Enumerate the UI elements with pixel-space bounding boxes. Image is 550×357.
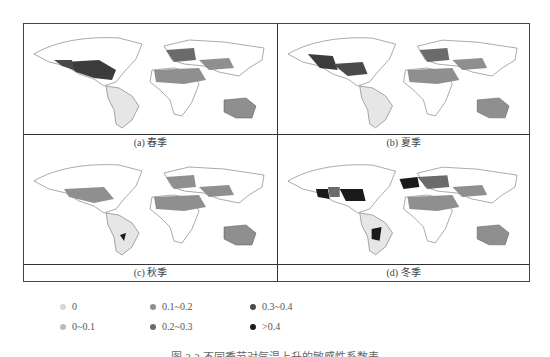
panel-label-autumn: (c) 秋季 [24,264,277,281]
legend-item-0.3-0.4: 0.3~0.4 [250,301,292,312]
legend-swatch-icon [150,304,156,310]
panel-label-summer: (b) 夏季 [277,134,529,151]
legend: 0 0~0.1 0.1~0.2 0.2~0.3 0.3~0.4 >0.4 [60,301,360,341]
map-panel-autumn [24,151,277,264]
world-map-winter [278,151,529,264]
world-map-spring [24,24,277,134]
map-panel-spring [24,24,277,134]
legend-item-0-0.1: 0~0.1 [60,321,95,332]
legend-item-0: 0 [60,301,77,312]
world-map-autumn [24,151,277,264]
legend-swatch-icon [250,304,256,310]
panel-label-spring: (a) 春季 [24,134,277,151]
panel-label-winter: (d) 冬季 [277,264,529,281]
legend-swatch-icon [60,304,66,310]
world-map-summer [278,24,529,134]
figure-frame: (a) 春季 (b) 夏季 [23,23,530,282]
figure-caption: 图 3-3 不同季节对气温上升的敏感性系数表 [0,349,550,357]
legend-swatch-icon [150,324,156,330]
map-panel-summer [277,24,529,134]
legend-item-0.2-0.3: 0.2~0.3 [150,321,192,332]
legend-item-0.1-0.2: 0.1~0.2 [150,301,192,312]
map-panel-winter [277,151,529,264]
legend-item-gt-0.4: >0.4 [250,321,280,332]
legend-swatch-icon [60,324,66,330]
legend-swatch-icon [250,324,256,330]
